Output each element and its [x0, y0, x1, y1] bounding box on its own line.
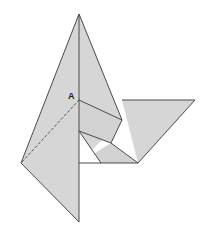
geometry-diagram: A: [0, 0, 213, 238]
point-a-label: A: [68, 91, 75, 101]
label-layer: A: [68, 91, 75, 101]
figure-container: A: [0, 0, 213, 238]
